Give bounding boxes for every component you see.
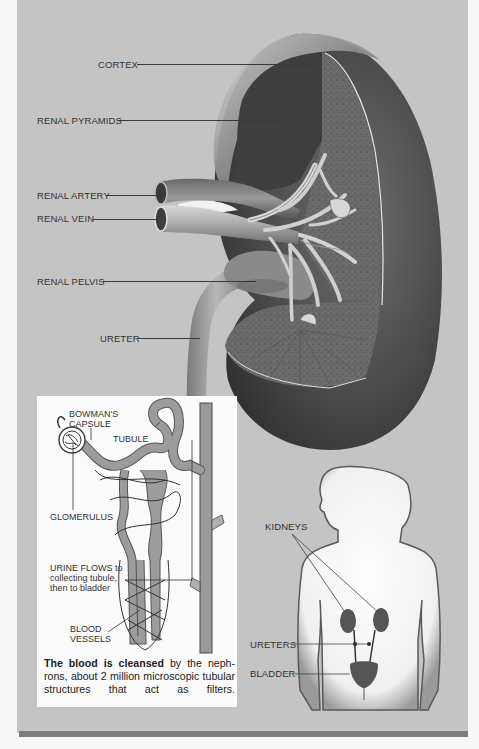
bottom-rule — [19, 731, 468, 737]
label-kidneys: KIDNEYS — [265, 521, 307, 532]
label-bladder: BLADDER — [250, 668, 296, 679]
label-ureters: URETERS — [250, 639, 296, 650]
human-body-illustration — [0, 0, 479, 749]
